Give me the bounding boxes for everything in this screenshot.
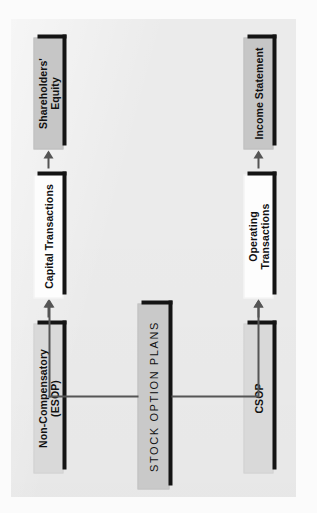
node-operating-transactions[interactable]: Operating Transactions xyxy=(243,174,273,298)
screenshot-canvas: STOCK OPTION PLANS Non-Compensatory (ESO… xyxy=(0,0,317,513)
connector-root-to-csop-vertical xyxy=(171,395,258,397)
arrowhead-operating-to-income xyxy=(253,150,263,158)
arrowhead-capital-to-equity xyxy=(43,150,53,158)
diagram-page-panel: STOCK OPTION PLANS Non-Compensatory (ESO… xyxy=(11,19,296,497)
connector-root-to-esop-vertical xyxy=(48,395,138,397)
node-capital-transactions-label: Capital Transactions xyxy=(42,178,54,295)
node-stock-option-plans[interactable]: STOCK OPTION PLANS xyxy=(137,303,169,489)
node-operating-transactions-label: Operating Transactions xyxy=(246,175,270,297)
node-stock-option-plans-label: STOCK OPTION PLANS xyxy=(147,315,160,478)
node-income-statement[interactable]: Income Statement xyxy=(243,37,273,149)
rotated-diagram-container: STOCK OPTION PLANS Non-Compensatory (ESO… xyxy=(11,19,296,497)
node-capital-transactions[interactable]: Capital Transactions xyxy=(33,174,63,298)
arrowhead-esop-to-capital xyxy=(43,299,53,307)
node-shareholders-equity[interactable]: Shareholders' Equity xyxy=(33,37,63,149)
arrowhead-csop-to-operating xyxy=(253,299,263,307)
node-shareholders-equity-label: Shareholders' Equity xyxy=(36,38,60,148)
node-income-statement-label: Income Statement xyxy=(252,41,264,145)
